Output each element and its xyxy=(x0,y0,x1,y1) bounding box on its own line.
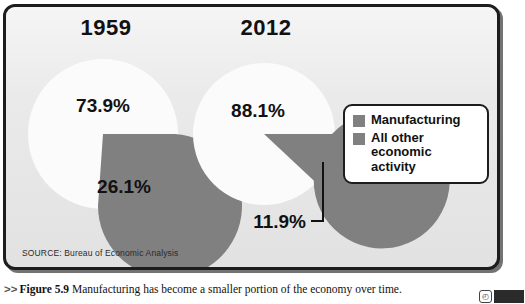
corner-badge[interactable]: ◴ xyxy=(479,289,525,304)
legend-swatch-all-other xyxy=(353,133,365,145)
badge-block xyxy=(494,290,524,303)
pie-2012-label-manufacturing: 11.9% xyxy=(253,211,306,232)
caption-body-text: Manufacturing has become a smaller porti… xyxy=(72,283,402,295)
caption-marker: >> xyxy=(4,283,17,295)
legend-label-manufacturing: Manufacturing xyxy=(371,113,461,128)
figure-panel: 1959 2012 73.9% 26.1% xyxy=(3,4,500,270)
source-note: SOURCE: Bureau of Economic Analysis xyxy=(22,248,178,258)
caption-figure-number: Figure 5.9 xyxy=(19,283,69,295)
legend-item-manufacturing: Manufacturing xyxy=(353,113,479,128)
pie-2012-label-all-other: 88.1% xyxy=(231,100,285,121)
chart-legend: Manufacturing All other economic activit… xyxy=(343,104,489,184)
figure-caption: >>Figure 5.9 Manufacturing has become a … xyxy=(4,283,459,295)
legend-swatch-manufacturing xyxy=(353,115,365,127)
legend-label-all-other: All other economic activity xyxy=(371,131,479,175)
legend-item-all-other: All other economic activity xyxy=(353,131,479,175)
clock-icon: ◴ xyxy=(479,290,492,303)
pie-1959-label-manufacturing: 26.1% xyxy=(97,176,151,197)
pie-1959-label-all-other: 73.9% xyxy=(76,95,130,116)
